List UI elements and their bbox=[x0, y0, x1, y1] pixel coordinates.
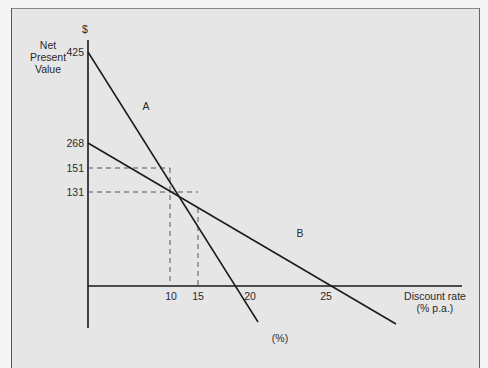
x-axis-title-line2: (% p.a.) bbox=[417, 302, 454, 314]
y-tick-425: 425 bbox=[66, 46, 84, 58]
x-tick-15: 15 bbox=[192, 290, 204, 302]
x-tick-10: 10 bbox=[165, 290, 177, 302]
reference-lines bbox=[88, 168, 198, 286]
series-label-b: B bbox=[296, 227, 303, 239]
percent-label: (%) bbox=[272, 332, 288, 344]
y-axis-title-line3: Value bbox=[35, 63, 61, 75]
y-axis-title-line1: Net bbox=[40, 39, 56, 51]
y-unit-label: $ bbox=[82, 23, 88, 35]
y-tick-131: 131 bbox=[66, 186, 84, 198]
y-tick-268: 268 bbox=[66, 137, 84, 149]
y-axis-title-line2: Present bbox=[30, 51, 66, 63]
x-tick-25: 25 bbox=[320, 290, 332, 302]
series-label-a: A bbox=[142, 100, 149, 112]
y-tick-151: 151 bbox=[66, 162, 84, 174]
line-a bbox=[88, 52, 258, 322]
x-tick-20: 20 bbox=[244, 290, 256, 302]
x-axis-title-line1: Discount rate bbox=[404, 290, 466, 302]
